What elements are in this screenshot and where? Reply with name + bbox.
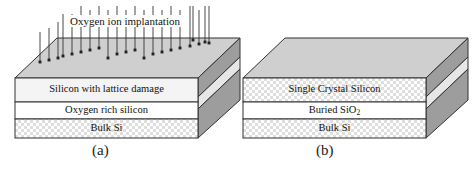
panel-a-implantation-label: Oxygen ion implantation (68, 15, 182, 27)
figure-canvas: Oxygen ion implantation Silicon with lat… (0, 0, 475, 169)
panel-b-buried-oxide-subscript: 2 (356, 108, 360, 117)
panel-a-caption: (a) (92, 142, 109, 159)
panel-b-layer-label-bulk-si: Bulk Si (243, 122, 426, 133)
panel-b-layer-label-single-crystal-silicon: Single Crystal Silicon (243, 83, 426, 94)
panel-b-layer-label-buried-sio2: Buried SiO2 (243, 104, 426, 117)
panel-b-caption: (b) (316, 142, 334, 159)
panel-b-buried-oxide-text: Buried SiO (309, 104, 357, 115)
panel-a-layer-label-oxygen-rich-silicon: Oxygen rich silicon (15, 104, 198, 115)
panel-a-layer-label-bulk-si: Bulk Si (15, 122, 198, 133)
panel-a-layer-label-silicon-with-lattice-damage: Silicon with lattice damage (15, 83, 198, 94)
